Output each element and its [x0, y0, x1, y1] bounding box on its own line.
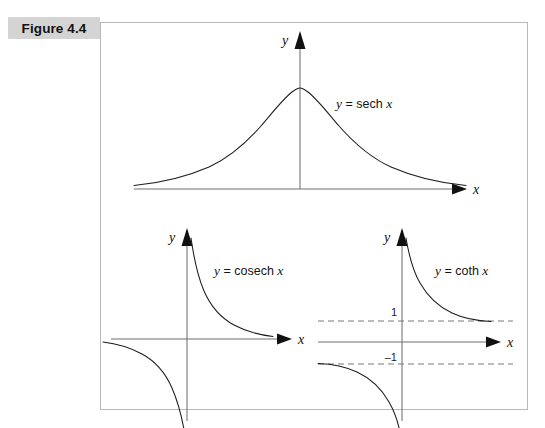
cosech-equation-label: y = cosech x — [212, 263, 283, 278]
coth-y-axis-label: y — [382, 230, 391, 245]
figure-number-label: Figure 4.4 — [22, 21, 87, 36]
coth-equation-label: y = coth x — [433, 263, 488, 278]
plot-cosech: x y y = cosech x — [101, 215, 325, 411]
cosech-curve-negative — [103, 342, 185, 428]
cosech-x-axis-label: x — [297, 332, 305, 347]
coth-tick-label-1: 1 — [391, 306, 397, 318]
coth-tick-label-minus-1: –1 — [385, 351, 397, 363]
plot-coth: 1 –1 x y y = coth x — [316, 215, 529, 411]
sech-y-axis-arrowhead — [295, 31, 306, 49]
cosech-y-axis-arrowhead — [182, 228, 193, 246]
cosech-curve-positive — [191, 238, 273, 337]
coth-curve-negative — [318, 364, 402, 428]
plot-sech: x y y = sech x — [101, 23, 529, 219]
cosech-x-axis-arrowhead — [277, 334, 292, 345]
sech-equation-label: y = sech x — [334, 96, 392, 111]
cosech-y-axis-label: y — [167, 230, 176, 245]
coth-x-axis-label: x — [506, 335, 514, 350]
sech-x-axis-label: x — [472, 182, 480, 197]
coth-x-axis-arrowhead — [486, 337, 501, 348]
figure-number-tag: Figure 4.4 — [8, 17, 100, 39]
figure-panel: x y y = sech x x y y = cosech x — [100, 22, 528, 410]
sech-y-axis-label: y — [280, 33, 289, 48]
coth-curve-positive — [406, 238, 491, 322]
coth-y-axis-arrowhead — [397, 228, 408, 246]
